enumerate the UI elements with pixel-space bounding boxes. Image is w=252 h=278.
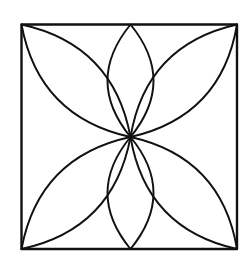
petal-top-right [131,25,238,138]
petal-bottom-right [131,137,238,249]
petal-top [108,25,154,138]
petal-bottom-left [22,137,131,249]
petals-group [22,25,238,250]
rosette-diagram [0,0,252,278]
petal-top-left [22,25,131,138]
petal-bottom [108,137,154,249]
